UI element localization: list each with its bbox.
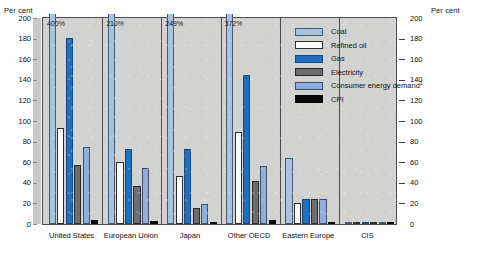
bar-cpi-japan	[210, 222, 217, 224]
y-tick-mark-right-60	[399, 162, 405, 163]
bar-gas-other-oecd	[243, 75, 250, 224]
x-axis-label-japan: Japan	[160, 231, 219, 240]
legend-swatch-coal	[295, 28, 323, 36]
legend-item-cpi: CPI	[295, 93, 417, 107]
y-tick-mark-right-40	[399, 183, 405, 184]
bar-elec-european-union	[133, 186, 140, 224]
y-tick-label-right-0: 0	[410, 220, 436, 229]
y-tick-label-right-20: 20	[410, 199, 436, 208]
bar-cpi-eastern-europe	[328, 222, 335, 224]
bar-ced-cis	[379, 222, 386, 224]
y-tick-mark-right-100	[399, 121, 405, 122]
bar-elec-cis	[370, 222, 377, 224]
bars-wrap	[102, 18, 161, 224]
bar-ced-eastern-europe	[319, 199, 326, 224]
bar-elec-united-states	[74, 165, 81, 224]
x-axis-label-european-union: European Union	[101, 231, 160, 240]
y-tick-mark-right-20	[399, 203, 405, 204]
bar-cpi-united-states	[91, 220, 98, 224]
y-tick-label-left-140: 140	[6, 75, 31, 84]
y-tick-label-left-80: 80	[6, 137, 31, 146]
bar-oil-japan	[176, 176, 183, 224]
bar-gas-united-states	[66, 38, 73, 224]
y-tick-label-right-200: 200	[410, 14, 436, 23]
y-tick-label-right-100: 100	[410, 117, 436, 126]
legend-footnote-marker: 1	[420, 80, 423, 86]
legend-swatch-ced	[295, 82, 323, 90]
legend-label-oil: Refined oil	[331, 39, 366, 52]
legend-swatch-gas	[295, 55, 323, 63]
bar-ced-other-oecd	[260, 166, 267, 224]
legend-item-elec: Electricity	[295, 66, 417, 80]
bar-ced-japan	[201, 204, 208, 224]
bar-cpi-other-oecd	[269, 220, 276, 224]
legend-label-coal: Coal	[331, 25, 346, 38]
y-tick-label-left-40: 40	[6, 178, 31, 187]
legend-label-gas: Gas	[331, 52, 345, 65]
bar-cpi-european-union	[150, 221, 157, 224]
bar-annotation-other-oecd: 372%	[225, 20, 243, 27]
legend-swatch-elec	[295, 68, 323, 76]
legend-label-ced: Consumer energy demand1	[331, 79, 423, 92]
bar-gas-eastern-europe	[302, 199, 309, 224]
bar-gas-japan	[184, 149, 191, 224]
x-axis-label-cis: CIS	[338, 231, 397, 240]
x-axis-label-other-oecd: Other OECD	[220, 231, 279, 240]
legend-item-ced: Consumer energy demand1	[295, 79, 417, 93]
bar-gas-european-union	[125, 149, 132, 224]
legend-label-elec: Electricity	[331, 66, 363, 79]
legend-item-oil: Refined oil	[295, 39, 417, 53]
y-tick-label-left-160: 160	[6, 55, 31, 64]
chart-container: Per cent Per cent 2002001801801601601401…	[0, 0, 481, 269]
bar-coal-other-oecd	[226, 14, 233, 224]
bar-coal-eastern-europe	[285, 158, 292, 224]
bar-group-other-oecd	[221, 18, 280, 224]
bar-elec-eastern-europe	[311, 199, 318, 224]
bar-annotation-united-states: 400%	[47, 20, 65, 27]
bar-annotation-japan: 249%	[165, 20, 183, 27]
bar-oil-cis	[353, 222, 360, 224]
legend-swatch-cpi	[295, 95, 323, 103]
y-tick-label-right-40: 40	[410, 178, 436, 187]
bar-coal-united-states	[49, 14, 56, 224]
legend-label-cpi: CPI	[331, 93, 344, 106]
scan-ruler-strip	[33, 18, 41, 224]
bar-oil-united-states	[57, 128, 64, 224]
bar-oil-european-union	[116, 162, 123, 224]
bar-elec-other-oecd	[252, 181, 259, 224]
bar-coal-japan	[167, 14, 174, 224]
bar-group-japan	[161, 18, 220, 224]
y-tick-label-right-60: 60	[410, 158, 436, 167]
legend-swatch-oil	[295, 41, 323, 49]
y-tick-label-right-80: 80	[410, 137, 436, 146]
legend-item-gas: Gas	[295, 52, 417, 66]
bar-elec-japan	[193, 208, 200, 224]
bar-group-european-union	[102, 18, 161, 224]
legend-item-coal: Coal	[295, 25, 417, 39]
y-tick-label-left-120: 120	[6, 96, 31, 105]
chart-legend: CoalRefined oilGasElectricityConsumer en…	[295, 25, 417, 107]
bar-annotation-european-union: 210%	[106, 20, 124, 27]
bar-ced-united-states	[83, 147, 90, 224]
bar-gas-cis	[362, 222, 369, 224]
y-tick-label-left-0: 0	[6, 220, 31, 229]
bar-group-united-states	[43, 18, 102, 224]
y-tick-label-left-200: 200	[6, 14, 31, 23]
bars-wrap	[161, 18, 220, 224]
bar-cpi-cis	[387, 222, 394, 224]
bar-coal-european-union	[108, 14, 115, 224]
y-tick-mark-right-80	[399, 142, 405, 143]
bar-oil-other-oecd	[235, 132, 242, 224]
x-axis-label-eastern-europe: Eastern Europe	[279, 231, 338, 240]
x-axis-label-united-states: United States	[42, 231, 101, 240]
y-tick-label-left-20: 20	[6, 199, 31, 208]
bar-coal-cis	[345, 222, 352, 224]
bars-wrap	[43, 18, 102, 224]
y-tick-label-left-60: 60	[6, 158, 31, 167]
bars-wrap	[221, 18, 280, 224]
bar-ced-european-union	[142, 168, 149, 224]
bar-oil-eastern-europe	[294, 203, 301, 224]
y-tick-label-left-180: 180	[6, 34, 31, 43]
y-tick-label-left-100: 100	[6, 117, 31, 126]
